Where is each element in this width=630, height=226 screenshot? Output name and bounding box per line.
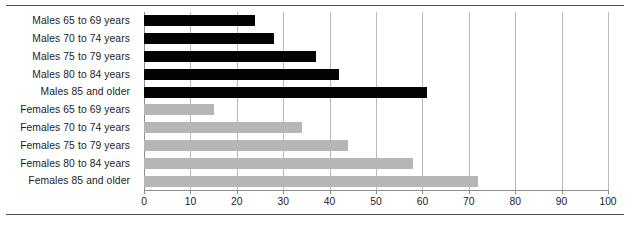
category-label: Males 80 to 84 years [32, 66, 130, 84]
plot-area [144, 12, 608, 190]
gridline-90 [562, 12, 563, 190]
top-divider-rule [6, 5, 624, 6]
x-tick-0 [144, 190, 145, 194]
x-tick-20 [237, 190, 238, 194]
x-tick-70 [469, 190, 470, 194]
gridline-80 [515, 12, 516, 190]
x-tick-label: 50 [356, 196, 396, 207]
x-tick-60 [422, 190, 423, 194]
category-label: Females 65 to 69 years [20, 101, 130, 119]
category-label-column: Males 65 to 69 yearsMales 70 to 74 years… [0, 12, 138, 190]
bar [144, 51, 316, 62]
bar [144, 33, 274, 44]
x-tick-50 [376, 190, 377, 194]
x-tick-label: 20 [217, 196, 257, 207]
x-tick-label: 70 [449, 196, 489, 207]
x-tick-label: 30 [263, 196, 303, 207]
x-tick-90 [562, 190, 563, 194]
x-tick-label: 10 [170, 196, 210, 207]
x-tick-label: 90 [542, 196, 582, 207]
x-tick-30 [283, 190, 284, 194]
bar [144, 122, 302, 133]
gridline-60 [422, 12, 423, 190]
category-label: Females 75 to 79 years [20, 137, 130, 155]
x-tick-80 [515, 190, 516, 194]
x-tick-label: 80 [495, 196, 535, 207]
bar [144, 140, 348, 151]
category-label: Males 70 to 74 years [32, 30, 130, 48]
category-label: Males 65 to 69 years [32, 12, 130, 30]
category-label: Females 80 to 84 years [20, 155, 130, 173]
category-label: Males 75 to 79 years [32, 48, 130, 66]
bar [144, 15, 255, 26]
x-tick-label: 60 [402, 196, 442, 207]
bar [144, 87, 427, 98]
bar-chart-figure: Males 65 to 69 yearsMales 70 to 74 years… [0, 0, 630, 226]
category-label: Males 85 and older [41, 83, 130, 101]
bar [144, 158, 413, 169]
bar [144, 176, 478, 187]
x-tick-label: 100 [588, 196, 628, 207]
gridline-100 [608, 12, 609, 190]
gridline-70 [469, 12, 470, 190]
x-tick-label: 40 [310, 196, 350, 207]
category-label: Females 70 to 74 years [20, 119, 130, 137]
x-tick-100 [608, 190, 609, 194]
bottom-divider-rule [6, 214, 624, 215]
x-tick-label: 0 [124, 196, 164, 207]
x-tick-10 [190, 190, 191, 194]
bar [144, 104, 214, 115]
x-tick-40 [330, 190, 331, 194]
bar [144, 69, 339, 80]
category-label: Females 85 and older [28, 172, 130, 190]
